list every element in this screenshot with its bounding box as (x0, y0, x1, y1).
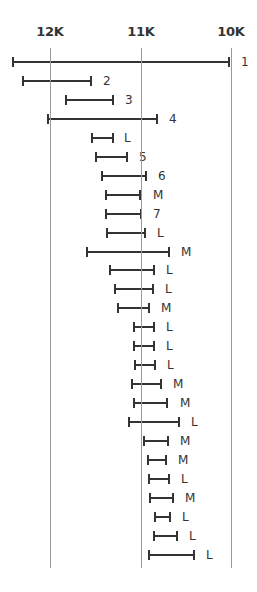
range-bar-label: 2 (103, 74, 111, 88)
range-bar-label: 7 (153, 207, 161, 221)
range-bar-label: L (191, 415, 198, 429)
range-bar-label: M (178, 453, 188, 467)
range-bar (106, 194, 140, 196)
axis-tick-label: 10K (217, 24, 244, 39)
range-bar (23, 80, 91, 82)
gridline-11k (141, 48, 142, 568)
range-bar-label: M (173, 377, 183, 391)
range-bar (134, 402, 167, 404)
range-bar-label: M (161, 301, 171, 315)
range-bar-label: L (124, 131, 131, 145)
range-bar-label: L (157, 226, 164, 240)
range-bar (155, 516, 170, 518)
range-bar-label: M (185, 491, 195, 505)
gridline-12k (50, 48, 51, 568)
range-bar-label: L (182, 510, 189, 524)
range-bar (134, 326, 154, 328)
range-bar (135, 364, 155, 366)
gridline-10k (231, 48, 232, 568)
range-bar-label: M (180, 396, 190, 410)
range-bar (110, 269, 154, 271)
range-bar (129, 421, 179, 423)
range-bar-label: M (153, 188, 163, 202)
range-bar (87, 251, 169, 253)
range-bar-label: L (189, 529, 196, 543)
range-bar-label: L (181, 472, 188, 486)
range-bar (134, 345, 154, 347)
range-bar-label: L (166, 263, 173, 277)
range-bar (107, 232, 145, 234)
range-bar (115, 288, 153, 290)
range-bar (148, 459, 166, 461)
range-bar (106, 213, 141, 215)
range-bar-label: 6 (158, 169, 166, 183)
axis-tick-label: 11K (127, 24, 154, 39)
axis-tick-label: 12K (36, 24, 63, 39)
range-bar-label: L (166, 339, 173, 353)
range-bar (92, 137, 113, 139)
range-bar (150, 497, 173, 499)
range-bar-label: M (181, 245, 191, 259)
range-bar (144, 440, 168, 442)
range-bar (118, 307, 149, 309)
range-bar (132, 383, 161, 385)
range-bar (66, 99, 113, 101)
range-bar-label: L (166, 320, 173, 334)
range-bar-label: 3 (125, 93, 133, 107)
range-bar (149, 478, 169, 480)
range-bar-label: 1 (241, 55, 249, 69)
range-bar (149, 554, 194, 556)
range-bar (154, 535, 177, 537)
range-bar (96, 156, 127, 158)
range-bar-label: 4 (169, 112, 177, 126)
range-bar-label: M (180, 434, 190, 448)
range-bar-label: L (167, 358, 174, 372)
range-bar-label: L (206, 548, 213, 562)
range-bar (13, 61, 229, 63)
range-bar-label: L (165, 282, 172, 296)
range-bar (102, 175, 146, 177)
